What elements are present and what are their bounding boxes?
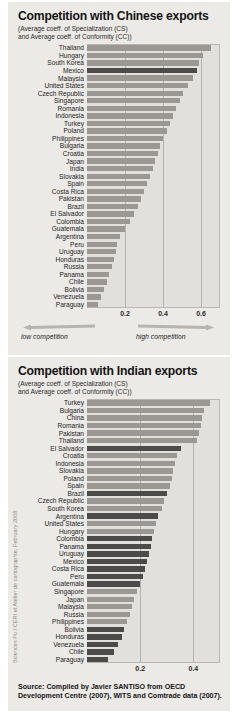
bar bbox=[87, 574, 143, 579]
country-label: Venezuela bbox=[8, 293, 87, 300]
bar-row: Philippines bbox=[8, 135, 230, 143]
bar-row: Singapore bbox=[8, 588, 230, 596]
bar bbox=[87, 143, 160, 148]
bar bbox=[87, 189, 144, 194]
country-label: Guatemala bbox=[8, 580, 87, 587]
bar-track bbox=[87, 233, 230, 241]
chart-title-india: Competition with Indian exports bbox=[8, 357, 230, 378]
bar-track bbox=[87, 74, 230, 82]
country-label: Chile bbox=[8, 648, 87, 655]
country-label: Costa Rica bbox=[8, 565, 87, 572]
country-label: Japan bbox=[8, 596, 87, 603]
bar bbox=[87, 491, 167, 496]
bar-row: Czech Republic bbox=[8, 497, 230, 505]
bar-track bbox=[87, 248, 230, 256]
bar bbox=[87, 642, 118, 647]
bar-track bbox=[87, 558, 230, 566]
country-label: Thailand bbox=[8, 44, 87, 51]
bar-track bbox=[87, 611, 230, 619]
country-label: South Korea bbox=[8, 505, 87, 512]
bar-track bbox=[87, 527, 230, 535]
bar-track bbox=[87, 505, 230, 513]
bar-track bbox=[87, 157, 230, 165]
bar-row: Croatia bbox=[8, 150, 230, 158]
country-label: Malaysia bbox=[8, 75, 87, 82]
country-label: El Salvador bbox=[8, 210, 87, 217]
bar bbox=[87, 98, 180, 103]
bar-row: Malaysia bbox=[8, 603, 230, 611]
bar bbox=[87, 551, 149, 556]
bar bbox=[87, 68, 197, 73]
bar-row: Pakistan bbox=[8, 195, 230, 203]
bar-row: Croatia bbox=[8, 452, 230, 460]
bar-row: El Salvador bbox=[8, 444, 230, 452]
bar bbox=[87, 45, 211, 50]
country-label: Panama bbox=[8, 271, 87, 278]
bar bbox=[87, 529, 154, 534]
bar-track bbox=[87, 180, 230, 188]
bar-track bbox=[87, 422, 230, 430]
bar bbox=[87, 204, 138, 209]
bar-track bbox=[87, 520, 230, 528]
bar-row: Bolivia bbox=[8, 626, 230, 634]
bar-rows-china: ThailandHungarySouth KoreaMexicoMalaysia… bbox=[8, 44, 230, 308]
high-competition-arrow-icon bbox=[138, 324, 214, 331]
country-label: Japan bbox=[8, 158, 87, 165]
bar bbox=[87, 257, 114, 262]
country-label: China bbox=[8, 414, 87, 421]
bar-track bbox=[87, 203, 230, 211]
bar-track bbox=[87, 444, 230, 452]
bar-track bbox=[87, 497, 230, 505]
publisher-credit: Sciences Po / CERI et Atelier de cartogr… bbox=[12, 543, 18, 663]
bar bbox=[87, 211, 134, 216]
country-label: Slovakia bbox=[8, 173, 87, 180]
country-label: Paraguay bbox=[8, 301, 87, 308]
bar-row: Peru bbox=[8, 573, 230, 581]
country-label: Spain bbox=[8, 180, 87, 187]
bar-track bbox=[87, 210, 230, 218]
bar-row: Bulgaria bbox=[8, 142, 230, 150]
bar bbox=[87, 589, 137, 594]
country-label: Panama bbox=[8, 543, 87, 550]
country-label: Hungary bbox=[8, 52, 87, 59]
bar-row: Spain bbox=[8, 180, 230, 188]
x-tick-label: 0.2 bbox=[135, 665, 145, 672]
bar-track bbox=[87, 414, 230, 422]
bar bbox=[87, 559, 147, 564]
bar bbox=[87, 649, 114, 654]
bar bbox=[87, 226, 125, 231]
country-label: Bulgaria bbox=[8, 407, 87, 414]
bar bbox=[87, 438, 197, 443]
country-label: Czech Republic bbox=[8, 90, 87, 97]
bar-row: Spain bbox=[8, 482, 230, 490]
bar bbox=[87, 113, 173, 118]
bar-row: Honduras bbox=[8, 256, 230, 264]
bar bbox=[87, 544, 151, 549]
x-tick-label: 0.6 bbox=[196, 310, 206, 317]
bar-track bbox=[87, 150, 230, 158]
bar bbox=[87, 242, 117, 247]
bar bbox=[87, 174, 150, 179]
bar-track bbox=[87, 218, 230, 226]
bar-row: Romania bbox=[8, 105, 230, 113]
bar-row: Guatemala bbox=[8, 580, 230, 588]
country-label: El Salvador bbox=[8, 445, 87, 452]
bar-track bbox=[87, 127, 230, 135]
country-label: Honduras bbox=[8, 633, 87, 640]
bar bbox=[87, 597, 134, 602]
bar-track bbox=[87, 271, 230, 279]
bar-track bbox=[87, 188, 230, 196]
bar-track bbox=[87, 490, 230, 498]
bar-row: Philippines bbox=[8, 618, 230, 626]
bar bbox=[87, 430, 199, 435]
bar-row: Malaysia bbox=[8, 74, 230, 82]
bar-track bbox=[87, 120, 230, 128]
bar-track bbox=[87, 603, 230, 611]
bar-row: Singapore bbox=[8, 97, 230, 105]
country-label: Honduras bbox=[8, 256, 87, 263]
bar-track bbox=[87, 460, 230, 468]
chart-subtitle-china-line2: and Average coeff. of Conformity (CC)) bbox=[8, 33, 230, 41]
country-label: Philippines bbox=[8, 618, 87, 625]
bar-track bbox=[87, 407, 230, 415]
bar bbox=[87, 219, 130, 224]
